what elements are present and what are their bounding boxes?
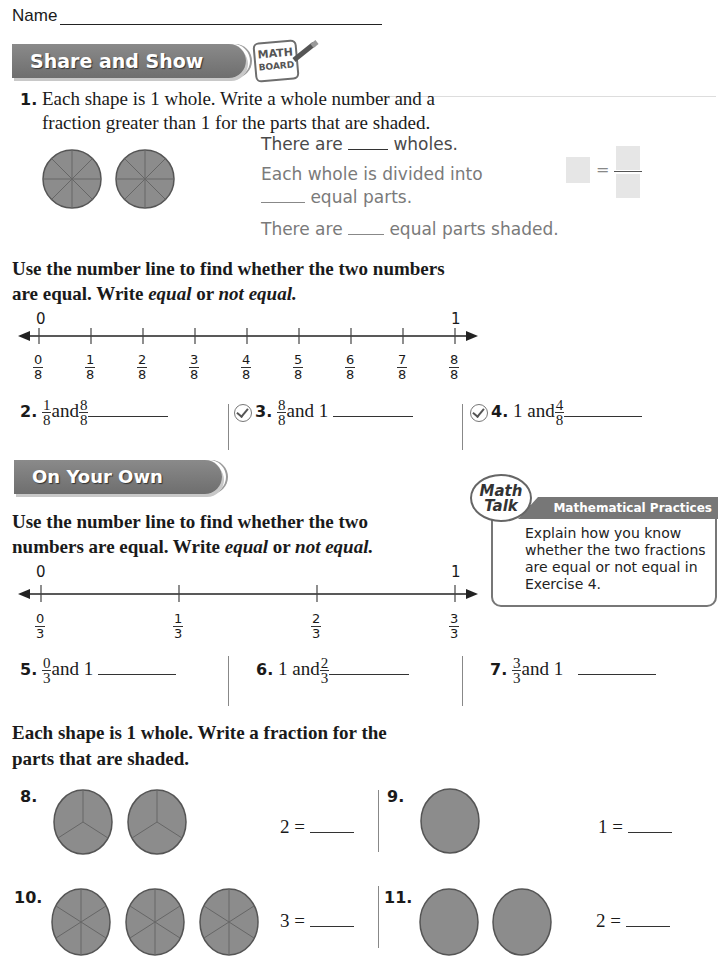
exercise-10-answer-blank[interactable]	[310, 926, 354, 927]
circle-whole	[421, 789, 479, 853]
column-divider	[378, 886, 379, 948]
numerator-answer-box[interactable]	[616, 146, 640, 170]
exercise-3-and: and 1	[286, 400, 328, 421]
question-1-text-line1: Each shape is 1 whole. Write a whole num…	[42, 87, 435, 111]
tick-0-3: 03	[35, 612, 45, 641]
exercise-6: 6. 1 and23	[256, 656, 409, 685]
circle-whole-1	[420, 889, 478, 955]
tick-5-8: 58	[293, 353, 303, 382]
on-your-own-banner: On Your Own	[14, 460, 222, 494]
q1-line-a-pre: There are	[261, 134, 343, 154]
exercise-8-lhs: 2 =	[280, 816, 305, 837]
exercise-6-pre: 1 and	[278, 658, 320, 679]
exercise-3-number: 3.	[255, 402, 272, 421]
name-input-line[interactable]	[60, 24, 382, 25]
exercise-6-number: 6.	[256, 660, 273, 679]
exercise-5-answer-blank[interactable]	[98, 674, 176, 675]
exercise-7: 7. 33and 1	[490, 656, 656, 685]
exercise-4: 4. 1 and48	[470, 398, 642, 427]
name-label: Name	[12, 6, 57, 26]
exercise-9-answer-blank[interactable]	[628, 832, 672, 833]
exercise-8-number: 8.	[20, 787, 37, 806]
tick-7-8: 78	[397, 353, 407, 382]
instr-or: or	[268, 536, 295, 557]
column-divider	[228, 656, 229, 706]
circle-whole-2	[493, 889, 551, 955]
q1-line-a-post: wholes.	[393, 134, 458, 154]
question-1-text-line2: fraction greater than 1 for the parts th…	[42, 111, 430, 135]
exercise-11-equation: 2 =	[596, 910, 670, 932]
circle-sixths-1	[52, 889, 110, 955]
tick-2-8: 28	[137, 353, 147, 382]
mathematical-practices-header: Mathematical Practices	[518, 497, 718, 519]
exercise-11-answer-blank[interactable]	[626, 926, 670, 927]
exercise-3: 3. 88and 1	[234, 398, 413, 427]
exercise-7-number: 7.	[490, 660, 507, 679]
section-a-instructions-line1: Use the number line to find whether the …	[12, 256, 445, 282]
q1-line-c-pre: There are	[261, 219, 343, 239]
column-divider	[378, 790, 379, 852]
exercise-11-shapes	[418, 887, 553, 957]
pencil-icon	[290, 38, 320, 64]
math-talk-prompt: Explain how you know whether the two fra…	[525, 525, 715, 593]
tick-6-8: 68	[345, 353, 355, 382]
q1-shaded-blank[interactable]	[348, 234, 384, 235]
exercise-9-number: 9.	[387, 787, 404, 806]
exercise-4-number: 4.	[491, 402, 508, 421]
exercise-2-answer-blank[interactable]	[88, 416, 168, 417]
section-c-instructions-line2: parts that are shaded.	[12, 746, 189, 772]
instr-equal: equal	[148, 283, 191, 304]
tick-3-8: 38	[189, 353, 199, 382]
exercise-7-answer-blank[interactable]	[578, 674, 656, 675]
exercise-8-equation: 2 =	[280, 816, 354, 838]
exercise-3-answer-blank[interactable]	[333, 416, 413, 417]
instr-not-equal: not equal.	[219, 283, 297, 304]
whole-number-answer-box[interactable]	[566, 157, 590, 183]
denominator-answer-box[interactable]	[616, 174, 640, 198]
exercise-10-lhs: 3 =	[280, 910, 305, 931]
circle-thirds-2	[128, 790, 186, 854]
exercise-9-shapes	[418, 787, 482, 855]
column-divider	[228, 404, 229, 450]
section-b-instructions-line2: numbers are equal. Write equal or not eq…	[12, 534, 373, 560]
tick-8-8: 88	[449, 353, 459, 382]
checkmark-icon	[470, 404, 488, 422]
exercise-6-answer-blank[interactable]	[329, 674, 409, 675]
number-line-eighths	[18, 324, 480, 348]
q1-shaded-line: There are equal parts shaded.	[261, 219, 559, 239]
exercise-8-answer-blank[interactable]	[310, 832, 354, 833]
exercise-5-number: 5.	[20, 660, 37, 679]
instr-or: or	[191, 283, 218, 304]
math-talk-bubble: Math Talk	[470, 474, 532, 522]
circle-sixths-2	[126, 889, 184, 955]
nl3-start-label: 0	[36, 563, 46, 581]
math-talk-word-2: Talk	[484, 497, 518, 515]
exercise-4-pre: 1 and	[513, 400, 555, 421]
q1-wholes-blank[interactable]	[348, 149, 388, 150]
exercise-2-number: 2.	[20, 402, 37, 421]
exercise-10-number: 10.	[14, 888, 42, 907]
q1-line-b2-post: equal parts.	[310, 187, 412, 207]
instr-pre: are equal. Write	[12, 283, 148, 304]
section-b-instructions-line1: Use the number line to find whether the …	[12, 509, 368, 535]
column-divider	[462, 404, 463, 450]
instr-pre: numbers are equal. Write	[12, 536, 225, 557]
section-c-instructions-line1: Each shape is 1 whole. Write a fraction …	[12, 720, 387, 746]
exercise-4-answer-blank[interactable]	[564, 416, 642, 417]
q1-parts-blank[interactable]	[261, 202, 305, 203]
exercise-8-shapes	[50, 788, 195, 856]
exercise-5-post: and 1	[51, 658, 93, 679]
nl3-end-label: 1	[451, 563, 461, 581]
q1-shapes	[40, 146, 180, 212]
fraction-bar	[614, 171, 642, 172]
column-divider	[462, 656, 463, 706]
tick-0-8: 08	[33, 353, 43, 382]
q1-equal-parts-line: equal parts.	[261, 187, 412, 207]
exercise-5: 5. 03and 1	[20, 656, 176, 685]
exercise-10-shapes	[50, 887, 265, 957]
exercise-7-post: and 1	[521, 658, 563, 679]
tick-4-8: 48	[241, 353, 251, 382]
section-a-instructions-line2: are equal. Write equal or not equal.	[12, 281, 297, 307]
tick-2-3: 23	[311, 612, 321, 641]
exercise-10-equation: 3 =	[280, 910, 354, 932]
